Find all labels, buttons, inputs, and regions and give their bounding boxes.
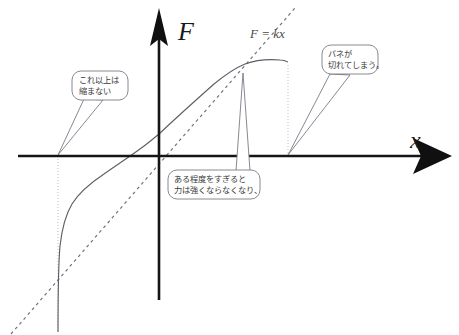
callout-tail-force-plateau (236, 73, 250, 171)
callout-line-spring-breaks-1: バネが (328, 49, 352, 59)
x-axis-label: x (409, 127, 421, 153)
callout-line-spring-breaks-2: 切れてしまう。 (328, 60, 384, 70)
callout-force-plateau[interactable]: ある程度をすぎると 力は強くならなくなり、 (168, 73, 262, 199)
equation-label: F = kx (249, 26, 285, 41)
y-axis-label: F (177, 17, 195, 46)
spring-force-diagram: F x F = kx これ以上は 縮まない ある程度をすぎると 力は強くならなく… (0, 0, 459, 335)
callout-line-force-plateau-2: 力は強くならなくなり、 (174, 185, 262, 195)
diagram-canvas: F x F = kx これ以上は 縮まない ある程度をすぎると 力は強くならなく… (0, 0, 459, 335)
callout-tail-spring-breaks (288, 74, 350, 155)
callout-spring-breaks[interactable]: バネが 切れてしまう。 (288, 45, 384, 155)
callout-line-compression-limit-1: これ以上は (79, 75, 119, 85)
callout-line-force-plateau-1: ある程度をすぎると (174, 174, 246, 184)
callout-line-compression-limit-2: 縮まない (79, 86, 111, 96)
callout-compression-limit[interactable]: これ以上は 縮まない (58, 71, 128, 155)
callout-tail-compression-limit (58, 99, 103, 155)
